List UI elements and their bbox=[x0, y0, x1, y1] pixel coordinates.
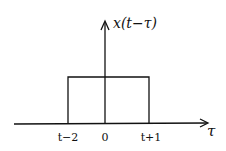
tick-label-right: t+1 bbox=[141, 131, 162, 144]
function-label: x(t−τ) bbox=[113, 15, 157, 31]
signal-diagram: x(t−τ) τ t−2 0 t+1 bbox=[0, 0, 226, 151]
tick-label-left: t−2 bbox=[58, 131, 79, 144]
tau-axis-label: τ bbox=[207, 122, 216, 140]
tau-axis bbox=[14, 123, 207, 124]
rectangular-pulse bbox=[68, 77, 149, 124]
tick-label-origin: 0 bbox=[102, 131, 109, 144]
